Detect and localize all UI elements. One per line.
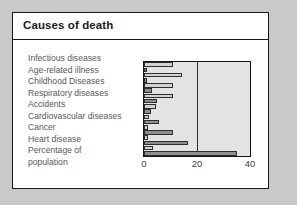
category-label: Respiratory diseases (28, 88, 148, 100)
bar-series-1 (144, 104, 156, 109)
category-label: Childhood Diseases (28, 76, 148, 88)
bar-chart-plot (143, 61, 251, 157)
x-tick-label: 0 (141, 158, 146, 169)
bar-series-2 (144, 99, 157, 104)
slide-body: Infectious diseasesAge-related illnessCh… (13, 41, 268, 188)
bar-series-2 (144, 141, 188, 146)
bar-series-2 (144, 68, 147, 73)
bar-series-1 (144, 125, 148, 130)
category-label: Heart disease (28, 134, 148, 146)
bar-series-1 (144, 146, 153, 151)
bar-series-1 (144, 73, 182, 78)
x-tick-label: 40 (245, 158, 256, 169)
page-title: Causes of death (23, 19, 113, 31)
bar-series-1 (144, 115, 149, 120)
bar-series-1 (144, 62, 173, 67)
category-label: Cancer (28, 122, 148, 134)
category-label-list: Infectious diseasesAge-related illnessCh… (28, 53, 148, 168)
category-label: Accidents (28, 99, 148, 111)
x-tick-label: 20 (192, 158, 203, 169)
category-label: population (28, 157, 148, 169)
plot-inner (144, 62, 250, 156)
bar-series-2 (144, 151, 237, 156)
slide-card: Causes of death Infectious diseasesAge-r… (12, 12, 269, 189)
bar-series-2 (144, 120, 159, 125)
category-label: Percentage of (28, 145, 148, 157)
category-label: Cardiovascular diseases (28, 111, 148, 123)
gridline-vertical (197, 62, 198, 156)
bar-series-1 (144, 94, 173, 99)
bar-series-2 (144, 109, 151, 114)
bar-series-2 (144, 88, 152, 93)
bar-series-2 (144, 130, 173, 135)
bar-series-2 (144, 78, 147, 83)
slide-header: Causes of death (13, 13, 268, 40)
category-label: Infectious diseases (28, 53, 148, 65)
category-label: Age-related illness (28, 65, 148, 77)
x-axis: 02040 (143, 157, 251, 173)
bar-series-1 (144, 135, 148, 140)
bar-series-1 (144, 83, 173, 88)
